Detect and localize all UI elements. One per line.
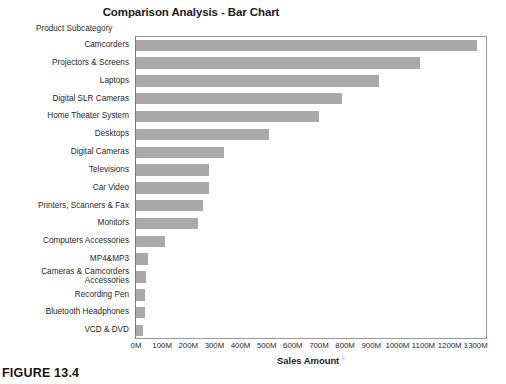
bar-row <box>136 321 487 340</box>
x-tick-label: 1000M <box>385 341 409 350</box>
category-label: Digital Cameras <box>0 147 129 156</box>
bar <box>136 111 319 122</box>
bar <box>136 147 224 158</box>
bar-row <box>136 214 487 233</box>
bar-row <box>136 72 487 91</box>
bar-row <box>136 303 487 322</box>
category-label: Televisions <box>0 165 129 174</box>
x-tick-label: 500M <box>257 341 277 350</box>
bar <box>136 200 203 211</box>
x-axis-title-text: Sales Amount <box>277 355 339 366</box>
bar <box>136 307 145 318</box>
category-label: Car Video <box>0 183 129 192</box>
x-tick-label: 0M <box>131 341 142 350</box>
category-label: Projectors & Screens <box>0 58 129 67</box>
category-label: Camcorders <box>0 40 129 49</box>
x-tick-label: 800M <box>335 341 355 350</box>
bar-row <box>136 286 487 305</box>
bar-row <box>136 89 487 108</box>
category-label: Recording Pen <box>0 290 129 299</box>
bar <box>136 236 165 247</box>
chart-title: Comparison Analysis - Bar Chart <box>56 6 326 18</box>
x-tick-label: 1200M <box>438 341 462 350</box>
bar <box>136 218 198 229</box>
figure-caption: FIGURE 13.4 <box>2 366 79 380</box>
category-label: Laptops <box>0 76 129 85</box>
x-tick-label: 300M <box>205 341 225 350</box>
bar <box>136 75 379 86</box>
category-label: MP4&MP3 <box>0 254 129 263</box>
bar <box>136 164 209 175</box>
bar <box>136 40 477 51</box>
x-tick-label: 700M <box>309 341 329 350</box>
category-label: Cameras & Camcorders Accessories <box>0 267 129 285</box>
x-tick-label: 400M <box>231 341 251 350</box>
bar <box>136 271 146 282</box>
y-axis-title: Product Subcategory <box>36 24 112 33</box>
x-tick-label: 200M <box>179 341 199 350</box>
x-tick-label: 1300M <box>464 341 488 350</box>
x-tick-label: 1100M <box>412 341 435 350</box>
category-label: Monitors <box>0 218 129 227</box>
bar <box>136 93 342 104</box>
category-label: VCD & DVD <box>0 325 129 334</box>
category-label: Computers Accessories <box>0 236 129 245</box>
category-label: Digital SLR Cameras <box>0 94 129 103</box>
bar-row <box>136 36 487 55</box>
bar-row <box>136 161 487 180</box>
bar-row <box>136 54 487 73</box>
bar-row <box>136 268 487 287</box>
bar <box>136 129 269 140</box>
x-tick-label: 600M <box>283 341 303 350</box>
bar-row <box>136 107 487 126</box>
bar-row <box>136 250 487 269</box>
bar-row <box>136 232 487 251</box>
category-label: Home Theater System <box>0 111 129 120</box>
bar-row <box>136 196 487 215</box>
x-tick-label: 900M <box>361 341 381 350</box>
bar <box>136 325 143 336</box>
bar <box>136 289 145 300</box>
bar <box>136 57 420 68</box>
category-axis-labels: CamcordersProjectors & ScreensLaptopsDig… <box>0 36 132 339</box>
bar <box>136 253 148 264</box>
category-label: Desktops <box>0 129 129 138</box>
x-tick-label: 100M <box>152 341 172 350</box>
category-label: Printers, Scanners & Fax <box>0 201 129 210</box>
bars-layer <box>136 36 487 339</box>
x-axis-title-marker: F <box>341 355 345 361</box>
category-label: Bluetooth Headphones <box>0 307 129 316</box>
bar-row <box>136 125 487 144</box>
x-axis-tick-labels: 0M100M200M300M400M500M600M700M800M900M10… <box>0 341 506 353</box>
bar-row <box>136 143 487 162</box>
x-axis-title: Sales AmountF <box>135 355 487 366</box>
bar <box>136 182 209 193</box>
bar-row <box>136 179 487 198</box>
